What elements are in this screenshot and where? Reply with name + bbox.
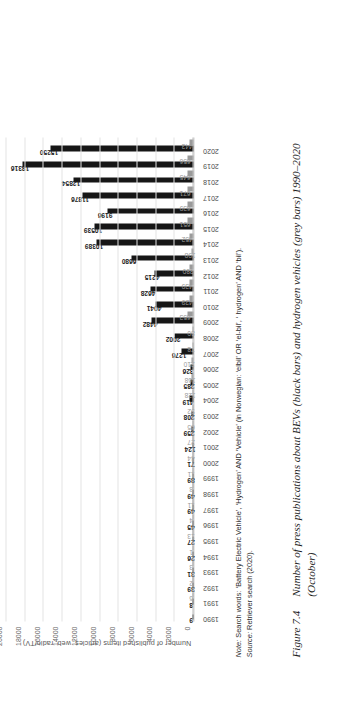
y-tick-label: 2000 bbox=[165, 626, 172, 642]
figure-notes: Note: Search words: ‘Battery Electric Ve… bbox=[232, 17, 255, 657]
bar-bev: 15250 bbox=[50, 145, 193, 151]
bar-value-label: 2002 bbox=[165, 335, 180, 342]
y-axis-ticks: 0200040006000800010000120001400016000180… bbox=[6, 623, 194, 657]
note-line: Note: Search words: ‘Battery Electric Ve… bbox=[232, 17, 243, 657]
rotated-page: Number of published items (articles, web… bbox=[0, 0, 359, 713]
x-tick-label: 2020 bbox=[203, 135, 219, 154]
gridline bbox=[136, 137, 137, 621]
x-tick: 2012 bbox=[194, 262, 220, 278]
bar-value-label: 639 bbox=[180, 204, 191, 211]
y-tick-label: 4000 bbox=[146, 626, 153, 642]
bar-value-label: 12854 bbox=[62, 179, 80, 186]
source-line: Source: Retriever search (2020). bbox=[243, 17, 254, 657]
source-text: Retriever search (2020). bbox=[244, 550, 253, 632]
x-tick: 2008 bbox=[194, 324, 220, 340]
figure-caption-text: Number of press publications about BEVs … bbox=[288, 0, 318, 596]
bar-value-label: 4628 bbox=[140, 289, 155, 296]
gridline bbox=[173, 137, 174, 621]
x-tick: 1994 bbox=[194, 543, 220, 559]
x-tick: 2000 bbox=[194, 449, 220, 465]
bar-bev: 10539 bbox=[94, 223, 193, 229]
x-tick: 1995 bbox=[194, 527, 220, 543]
plot-area: 9863923132612713454491149889117144124272… bbox=[6, 137, 194, 621]
bar-value-label: 439 bbox=[181, 282, 192, 289]
x-axis-labels: 1990199119921993199419951996199719981999… bbox=[194, 137, 220, 621]
y-tick-label: 14000 bbox=[52, 626, 59, 645]
gridline bbox=[5, 137, 6, 621]
x-tick: 2005 bbox=[194, 371, 220, 387]
y-tick-label: 20000 bbox=[0, 626, 3, 645]
gridline bbox=[61, 137, 62, 621]
x-tick: 1999 bbox=[194, 465, 220, 481]
bar-value-label: 452 bbox=[181, 235, 192, 242]
bar-value-label: 10389 bbox=[85, 242, 103, 249]
note-text: Search words: ‘Battery Electric Vehicle’… bbox=[233, 247, 242, 639]
bar-value-label: 380 bbox=[182, 267, 193, 274]
gridline bbox=[192, 137, 193, 621]
y-tick-label: 12000 bbox=[71, 626, 78, 645]
caption-line-1: Number of press publications about BEVs … bbox=[288, 0, 303, 596]
gridline bbox=[42, 137, 43, 621]
bar-bev: 18316 bbox=[22, 161, 193, 167]
x-tick: 1992 bbox=[194, 574, 220, 590]
bar-bev: 10389 bbox=[96, 239, 193, 245]
bar-value-label: 653 bbox=[179, 313, 190, 320]
bar-value-label: 651 bbox=[179, 220, 190, 227]
book-page: Number of published items (articles, web… bbox=[0, 0, 359, 713]
bar-value-label: 6680 bbox=[121, 257, 136, 264]
figure-number: Figure 7.4 bbox=[288, 610, 318, 657]
bar-value-label: 4215 bbox=[144, 273, 159, 280]
gridline bbox=[117, 137, 118, 621]
bar-value-label: 4041 bbox=[146, 304, 161, 311]
bar-value-label: 443 bbox=[181, 142, 192, 149]
gridline bbox=[80, 137, 81, 621]
note-label: Note: bbox=[233, 639, 242, 657]
x-tick: 2010 bbox=[194, 293, 220, 309]
bar-bev: 12854 bbox=[73, 177, 193, 183]
gridline bbox=[24, 137, 25, 621]
y-tick-label: 10000 bbox=[90, 626, 97, 645]
x-tick: 2017 bbox=[194, 184, 220, 200]
y-tick-label: 16000 bbox=[33, 626, 40, 645]
bar-value-label: 645 bbox=[179, 173, 190, 180]
caption-line-2: (October) bbox=[303, 0, 318, 596]
x-tick: 1990 bbox=[194, 605, 220, 621]
x-tick: 2007 bbox=[194, 340, 220, 356]
bar-value-label: 18316 bbox=[11, 164, 29, 171]
x-tick: 1997 bbox=[194, 496, 220, 512]
x-tick: 2015 bbox=[194, 215, 220, 231]
figure-caption: Figure 7.4 Number of press publications … bbox=[288, 0, 318, 657]
bar-chart: Number of published items (articles, web… bbox=[6, 137, 220, 657]
bar-value-label: 656 bbox=[179, 157, 190, 164]
x-tick: 2013 bbox=[194, 246, 220, 262]
x-tick: 2018 bbox=[194, 168, 220, 184]
y-tick-label: 6000 bbox=[127, 626, 134, 642]
x-tick: 2020 bbox=[194, 137, 220, 153]
source-label: Source: bbox=[244, 632, 253, 657]
y-tick-label: 8000 bbox=[108, 626, 115, 642]
x-tick: 2002 bbox=[194, 418, 220, 434]
gridline bbox=[99, 137, 100, 621]
x-tick: 1998 bbox=[194, 481, 220, 497]
y-tick-label: 18000 bbox=[14, 626, 21, 645]
gridline bbox=[155, 137, 156, 621]
x-tick: 2003 bbox=[194, 402, 220, 418]
bar-value-label: 429 bbox=[181, 298, 192, 305]
y-tick-label: 0 bbox=[184, 626, 191, 630]
bar-value-label: 671 bbox=[179, 189, 190, 196]
